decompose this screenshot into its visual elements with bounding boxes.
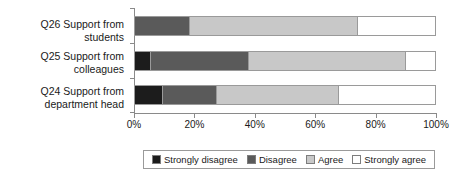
bar-row [134,85,436,105]
plot-area [134,8,436,113]
stacked-bar-chart: Q26 Support from students Q25 Support fr… [0,0,458,179]
chart-legend: Strongly disagreeDisagreeAgreeStrongly a… [143,150,435,169]
legend-swatch-icon [306,155,315,164]
x-axis-tick-label: 20% [184,119,204,130]
legend-item[interactable]: Agree [306,154,343,165]
bar-row [134,51,436,71]
category-label-q25: Q25 Support from colleagues [41,50,124,75]
x-axis-tick-labels: 0%20%40%60%80%100% [0,113,458,131]
legend-item[interactable]: Strongly agree [352,154,426,165]
bar-row [134,16,436,36]
bar-segment [338,86,436,104]
category-label-q24: Q24 Support from department head [41,85,124,110]
x-axis-tick-label: 100% [423,119,449,130]
y-axis-tick-2 [130,78,135,79]
legend-label: Strongly agree [364,154,426,165]
bar-segment [189,17,357,35]
x-axis-tick-label: 80% [366,119,386,130]
bar-segment [405,52,435,70]
bar-segment [135,86,162,104]
legend-swatch-icon [247,155,256,164]
bar-segment [162,86,216,104]
x-axis-tick-label: 40% [245,119,265,130]
bar-segment [248,52,406,70]
bar-segment [135,52,150,70]
y-axis-tick-1 [130,43,135,44]
x-axis-tick-label: 0% [127,119,141,130]
legend-label: Disagree [259,154,297,165]
legend-label: Strongly disagree [164,154,238,165]
y-axis-tick-top [130,8,135,9]
bar-segment [357,17,435,35]
x-axis-tick-label: 60% [305,119,325,130]
bar-segment [216,86,338,104]
legend-swatch-icon [352,155,361,164]
bar-segment [135,17,189,35]
category-axis-labels: Q26 Support from students Q25 Support fr… [0,0,128,112]
legend-item[interactable]: Strongly disagree [152,154,238,165]
legend-item[interactable]: Disagree [247,154,297,165]
legend-swatch-icon [152,155,161,164]
bar-segment [150,52,248,70]
legend-label: Agree [318,154,343,165]
category-label-q26: Q26 Support from students [0,18,124,43]
